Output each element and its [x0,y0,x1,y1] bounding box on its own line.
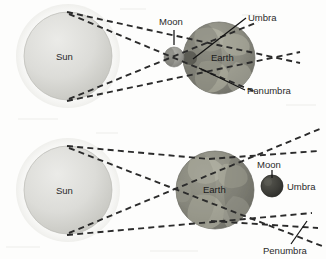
eclipse-diagram: Sun Moon Earth Umbra Penumbra [0,0,326,259]
penumbra-leader-line [291,221,307,244]
top-penumbra-label: Penumbra [247,85,292,96]
top-sun-label: Sun [56,51,73,62]
bottom-earth-label: Earth [203,184,226,195]
top-earth-label: Earth [211,52,234,63]
bottom-sun-label: Sun [56,185,73,196]
diagram-canvas: Sun Moon Earth Umbra Penumbra [0,0,326,259]
top-moon-label: Moon [159,16,183,27]
bottom-moon-label: Moon [257,159,281,170]
top-umbra-label: Umbra [248,12,277,23]
bottom-moon [261,175,283,197]
bottom-umbra-label: Umbra [287,181,316,192]
bottom-penumbra-label: Penumbra [263,245,308,256]
